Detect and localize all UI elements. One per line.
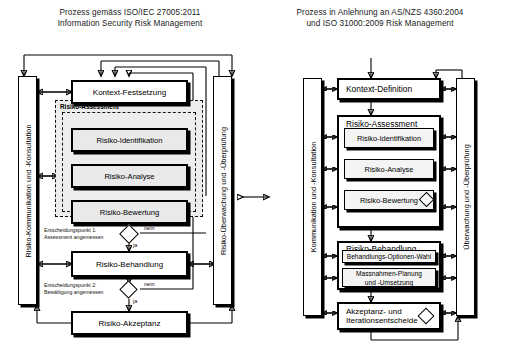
right-box-treatment-options[interactable]: Behandlungs-Optionen-Wahl [342, 250, 436, 263]
right-monitoring-review-bar: Überwachung und -Überprüfung [456, 78, 475, 316]
right-box-analysis[interactable]: Risiko-Analyse [344, 159, 434, 179]
right-box-identification[interactable]: Risiko-Identifikation [344, 128, 434, 148]
diagram-canvas: Prozess gemäss ISO/IEC 27005:2011 Inform… [0, 0, 512, 352]
right-communication-consultation-bar: Kommunikation und -Konsultation [303, 78, 322, 316]
right-box-context[interactable]: Kontext-Definition [337, 78, 441, 100]
right-box-measures[interactable]: Massnahmen-Planung und -Umsetzung [342, 268, 436, 287]
right-communication-consultation-label: Kommunikation und -Konsultation [308, 142, 317, 253]
right-monitoring-review-label: Überwachung und -Überprüfung [461, 144, 470, 250]
